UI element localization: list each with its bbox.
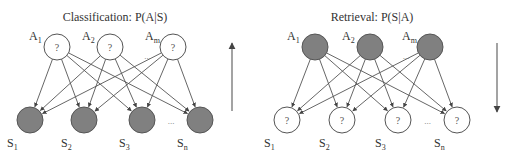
attribute-label: A1 — [287, 29, 300, 45]
attribute-circle — [302, 34, 328, 60]
bipartite-diagram: Classification: P(A|S)?A1?A2?AmS1S2S3Sn.… — [0, 0, 511, 157]
unknown-mark: ? — [340, 115, 345, 126]
edge-arrow — [347, 59, 365, 107]
attribute-node-2: A2 — [342, 29, 383, 60]
edge-arrow — [327, 53, 445, 114]
diagram-canvas: Classification: P(A|S)?A1?A2?AmS1S2S3Sn.… — [0, 0, 511, 157]
edge-arrow — [375, 59, 393, 107]
attribute-node-m: ?Am — [145, 29, 186, 60]
attribute-circle — [357, 34, 383, 60]
attribute-ellipsis: ... — [144, 51, 151, 61]
edge-arrow — [67, 55, 132, 110]
attribute-node-1: ?A1 — [29, 29, 70, 60]
sample-node-n: ?Sn — [434, 107, 470, 152]
sample-label: S1 — [7, 136, 18, 152]
edge-arrow — [95, 55, 163, 111]
attribute-node-2: ?A2 — [82, 29, 123, 60]
attribute-label: A1 — [29, 29, 42, 45]
sample-ellipsis: ... — [168, 116, 175, 126]
attribute-ellipsis: ... — [403, 51, 410, 61]
sample-label: Sn — [177, 136, 188, 152]
edge-arrow — [320, 59, 338, 107]
sample-node-2: ?S2 — [319, 107, 355, 152]
edge-arrow — [147, 59, 167, 107]
unknown-mark: ? — [55, 42, 60, 53]
sample-node-2: S2 — [61, 107, 97, 152]
unknown-mark: ? — [396, 115, 401, 126]
sample-circle — [187, 107, 213, 133]
attribute-label: A2 — [342, 29, 355, 45]
edge-arrow — [178, 59, 196, 107]
sample-label: S2 — [61, 136, 72, 152]
sample-node-3: ?S3 — [375, 107, 411, 152]
attribute-label: Am — [402, 29, 418, 45]
sample-node-1: ?S1 — [264, 107, 300, 152]
sample-node-n: Sn — [177, 107, 213, 152]
edges — [35, 53, 195, 114]
sample-label: S3 — [375, 136, 386, 152]
unknown-mark: ? — [108, 42, 113, 53]
edges — [292, 53, 452, 114]
attribute-label: A2 — [82, 29, 95, 45]
attribute-node-1: A1 — [287, 29, 328, 60]
edge-arrow — [40, 56, 100, 111]
sample-circle — [71, 107, 97, 133]
sample-ellipsis: ... — [424, 116, 431, 126]
sample-circle — [129, 107, 155, 133]
unknown-mark: ? — [455, 115, 460, 126]
edge-arrow — [298, 56, 361, 111]
edge-arrow — [292, 59, 310, 107]
panel-title: Retrieval: P(S|A) — [331, 10, 414, 24]
edge-arrow — [42, 53, 161, 114]
retrieval-panel: Retrieval: P(S|A)A1A2Am?S1?S2?S3?Sn.....… — [264, 10, 497, 152]
sample-label: S3 — [119, 136, 130, 152]
sample-label: Sn — [434, 136, 445, 152]
sample-circle — [17, 107, 43, 133]
classification-panel: Classification: P(A|S)?A1?A2?AmS1S2S3Sn.… — [7, 10, 232, 152]
sample-label: S2 — [319, 136, 330, 152]
edge-arrow — [353, 55, 420, 111]
unknown-mark: ? — [285, 115, 290, 126]
edge-arrow — [435, 59, 453, 107]
attribute-circle — [417, 34, 443, 60]
sample-node-3: S3 — [119, 107, 155, 152]
attribute-label: Am — [145, 29, 161, 45]
sample-label: S1 — [264, 136, 275, 152]
unknown-mark: ? — [171, 42, 176, 53]
sample-node-1: S1 — [7, 107, 43, 152]
panel-title: Classification: P(A|S) — [63, 10, 168, 24]
edge-arrow — [299, 53, 418, 114]
edge-arrow — [35, 59, 53, 107]
